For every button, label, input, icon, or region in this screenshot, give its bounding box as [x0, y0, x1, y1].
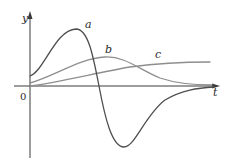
curve-c-label: c [155, 48, 161, 61]
y-axis-arrow-icon [28, 11, 33, 19]
curve-a-label: a [85, 18, 92, 31]
y-axis-label: y [21, 12, 29, 25]
chart-canvas: y t 0 a b c [0, 0, 236, 165]
curve-a [30, 29, 214, 147]
origin-label: 0 [20, 91, 26, 102]
curve-c [30, 62, 210, 86]
curve-b-label: b [105, 43, 112, 56]
x-axis-label: t [213, 86, 218, 99]
